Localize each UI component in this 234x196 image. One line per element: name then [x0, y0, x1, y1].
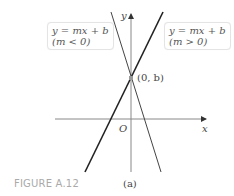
label-box-negative-slope: y = mx + b (m < 0) [47, 22, 114, 50]
condition-negative: (m < 0) [52, 36, 109, 47]
equation-positive: y = mx + b [169, 25, 226, 36]
origin-label: O [119, 123, 127, 134]
label-box-positive-slope: y = mx + b (m > 0) [164, 22, 231, 50]
subfigure-label: (a) [123, 178, 137, 189]
figure-caption: FIGURE A.12 [14, 178, 79, 189]
intercept-label: (0, b) [137, 72, 164, 83]
y-axis-label: y [121, 10, 127, 21]
x-axis-label: x [202, 123, 208, 134]
line-negative-slope [111, 12, 161, 172]
condition-positive: (m > 0) [169, 36, 226, 47]
intercept-point [129, 76, 133, 80]
equation-negative: y = mx + b [52, 25, 109, 36]
